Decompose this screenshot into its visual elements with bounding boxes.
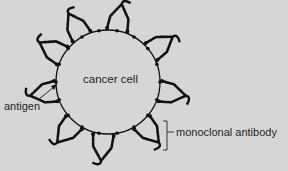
monoclonal-antibody	[132, 114, 160, 150]
monoclonal-antibody	[156, 79, 189, 105]
antigen-dot	[115, 131, 119, 135]
cancer-cell-diagram	[0, 0, 288, 171]
monoclonal-antibody	[105, 1, 131, 34]
cancer-cell-label: cancer cell	[83, 74, 138, 86]
antigen-dot	[146, 47, 150, 51]
antibody-bracket	[163, 121, 174, 150]
monoclonal-antibody-label: monoclonal antibody	[176, 127, 277, 138]
monoclonal-antibody	[37, 34, 69, 67]
antigen-dot	[132, 35, 136, 39]
antigen-dot	[97, 29, 101, 33]
antigen-dot	[97, 131, 101, 135]
monoclonal-antibody	[49, 114, 84, 144]
antigen-label: antigen	[4, 101, 40, 112]
antigen-dot	[115, 29, 119, 33]
antigen-dot	[80, 35, 84, 39]
antigen-dot	[155, 62, 159, 66]
monoclonal-antibody	[91, 132, 116, 164]
